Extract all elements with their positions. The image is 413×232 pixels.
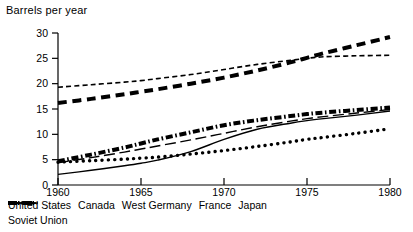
- svg-text:5: 5: [42, 153, 48, 165]
- legend-item-japan: Japan: [238, 198, 267, 213]
- y-axis-ticks: 051015202530: [36, 27, 58, 191]
- svg-text:1970: 1970: [212, 186, 236, 198]
- svg-text:1960: 1960: [46, 186, 70, 198]
- legend-label-canada: Canada: [78, 198, 115, 213]
- legend-item-west-germany: West Germany: [122, 198, 199, 213]
- svg-text:30: 30: [36, 27, 48, 39]
- legend-item-soviet-union: Soviet Union: [8, 213, 68, 228]
- legend-label-soviet-union: Soviet Union: [8, 213, 68, 228]
- chart-legend: United States Canada West Germany France: [8, 198, 408, 228]
- svg-text:1965: 1965: [129, 186, 153, 198]
- svg-text:1980: 1980: [378, 186, 402, 198]
- legend-swatch-soviet-union: [8, 198, 34, 207]
- svg-text:20: 20: [36, 77, 48, 89]
- legend-item-canada: Canada: [78, 198, 122, 213]
- series-line-soviet-union: [58, 129, 390, 162]
- svg-text:15: 15: [36, 103, 48, 115]
- chart-container: Barrels per year 051015202530 1960196519…: [0, 0, 413, 232]
- legend-item-france: France: [199, 198, 239, 213]
- legend-label-japan: Japan: [238, 198, 267, 213]
- legend-row-1: United States Canada West Germany France: [8, 198, 408, 213]
- legend-row-2: Soviet Union: [8, 213, 408, 228]
- series-line-japan: [58, 111, 390, 174]
- series-line-united-states: [58, 55, 390, 87]
- svg-text:1975: 1975: [295, 186, 319, 198]
- svg-text:25: 25: [36, 52, 48, 64]
- x-axis-ticks: 19601965197019751980: [46, 178, 402, 198]
- legend-label-france: France: [199, 198, 232, 213]
- legend-label-west-germany: West Germany: [122, 198, 192, 213]
- series-lines: [58, 37, 390, 174]
- svg-text:10: 10: [36, 128, 48, 140]
